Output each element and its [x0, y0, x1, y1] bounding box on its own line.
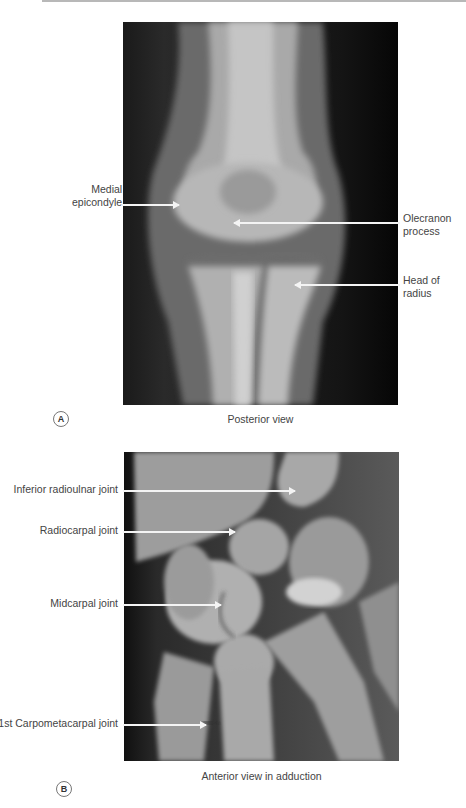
label-line: epicondyle: [72, 196, 122, 209]
top-rule: [42, 0, 466, 2]
label-inferior-radioulnar-joint: Inferior radioulnar joint: [14, 483, 118, 496]
arrow-head-of-radius: [295, 284, 400, 286]
label-line: Medial: [72, 183, 122, 196]
caption-anterior-view-in-adduction: Anterior view in adduction: [124, 770, 399, 782]
label-olecranon-process: Olecranon process: [403, 212, 451, 238]
label-line: Head of: [403, 274, 440, 287]
caption-posterior-view: Posterior view: [123, 413, 398, 425]
panel-letter-b: B: [56, 781, 72, 797]
label-1st-carpometacarpal-joint: 1st Carpometacarpal joint: [0, 717, 118, 730]
label-line: radius: [403, 287, 440, 300]
arrow-radiocarpal-joint: [123, 531, 235, 533]
arrow-olecranon-process: [234, 222, 400, 224]
label-head-of-radius: Head of radius: [403, 274, 440, 300]
panel-letter-a: A: [53, 411, 69, 427]
arrow-medial-epicondyle: [122, 204, 179, 206]
arrowhead-icon: [233, 219, 240, 227]
arrow-midcarpal-joint: [123, 604, 221, 606]
arrowhead-icon: [215, 601, 222, 609]
arrow-inferior-radioulnar-joint: [123, 490, 295, 492]
arrowhead-icon: [294, 281, 301, 289]
xray-elbow-image: [123, 22, 398, 405]
arrowhead-icon: [289, 487, 296, 495]
arrowhead-icon: [173, 201, 180, 209]
xray-wrist-image: [124, 452, 399, 761]
arrowhead-icon: [200, 721, 207, 729]
label-medial-epicondyle: Medial epicondyle: [72, 183, 122, 209]
label-line: process: [403, 225, 451, 238]
label-radiocarpal-joint: Radiocarpal joint: [40, 524, 118, 537]
arrowhead-icon: [229, 528, 236, 536]
label-line: Olecranon: [403, 212, 451, 225]
arrow-1st-carpometacarpal-joint: [123, 724, 206, 726]
label-midcarpal-joint: Midcarpal joint: [50, 597, 118, 610]
